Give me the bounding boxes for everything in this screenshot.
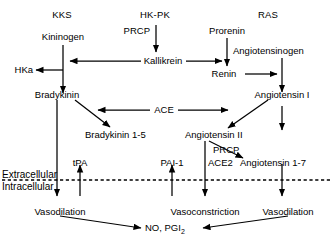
arrow-bradykinin-to-bradykinin-1-5 (75, 100, 110, 127)
node-bradykinin-1-5: Bradykinin 1-5 (85, 130, 146, 140)
node-angiotensin-i: Angiotensin I (255, 90, 310, 100)
node-pai1: PAI-1 (160, 158, 183, 168)
node-prcp-mid: PRCP (213, 145, 239, 155)
node-ace2: ACE2 (208, 158, 233, 168)
node-vasoconstriction: Vasoconstriction (171, 207, 240, 217)
node-angiotensin-ii: Angiotensin II (185, 130, 243, 140)
section-header-ras: RAS (258, 10, 278, 20)
node-renin: Renin (212, 69, 237, 79)
membrane-label-intracellular: Intracellular (2, 182, 54, 192)
section-header-kks: KKS (52, 10, 72, 20)
no-pgi2-main: NO, PGI (145, 222, 181, 233)
node-prorenin: Prorenin (209, 26, 245, 36)
arrow-angiotensin-i-to-angiotensin-ii (228, 100, 268, 128)
pathway-diagram: KKS HK-PK RAS Kininogen PRCP Prorenin HK… (0, 0, 330, 249)
node-no-pgi2: NO, PGI2 (145, 223, 185, 235)
no-pgi2-subscript: 2 (181, 228, 185, 235)
node-angiotensinogen: Angiotensinogen (233, 46, 304, 56)
node-kallikrein: Kallikrein (144, 56, 183, 66)
arrow-vasodilation-left-to-no-pgi2 (60, 216, 141, 228)
node-angiotensin-1-7: Angiotensin 1-7 (240, 158, 306, 168)
node-bradykinin: Bradykinin (35, 90, 79, 100)
node-tpa: tPA (73, 158, 88, 168)
membrane-label-extracellular: Extracellular (2, 170, 57, 180)
node-prcp-top: PRCP (124, 26, 150, 36)
section-header-hk-pk: HK-PK (140, 10, 170, 20)
node-hka: HKa (15, 65, 33, 75)
arrow-vasodilation-right-to-no-pgi2 (203, 216, 288, 228)
node-vasodilation-left: Vasodilation (34, 207, 85, 217)
node-kininogen: Kininogen (42, 32, 84, 42)
node-vasodilation-right: Vasodilation (262, 207, 313, 217)
node-ace: ACE (154, 105, 174, 115)
